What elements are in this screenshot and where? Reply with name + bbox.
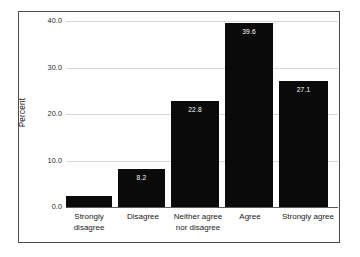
gridline [66, 21, 338, 22]
y-tick-label: 30.0 [28, 64, 62, 72]
bar-neither-agree-nor-disagree[interactable]: 22.8 [171, 101, 219, 207]
bar-disagree[interactable]: 8.2 [118, 169, 165, 207]
x-tick-line: nor disagree [163, 223, 233, 234]
x-tick-line: Strongly agree [272, 212, 344, 223]
bar-strongly-agree[interactable]: 27.1 [279, 81, 328, 207]
plot-area: 8.2 22.8 39.6 27.1 [66, 21, 338, 207]
bar-agree[interactable]: 39.6 [225, 23, 273, 207]
y-tick-label: 40.0 [28, 17, 62, 25]
x-tick-line: disagree [56, 223, 122, 234]
bar-value-label: 8.2 [118, 174, 165, 181]
y-tick-label: 0.0 [28, 203, 62, 211]
gridline [66, 68, 338, 69]
y-axis-label: Percent [18, 83, 27, 143]
y-tick-label: 10.0 [28, 157, 62, 165]
x-axis-baseline [66, 207, 338, 208]
x-tick-label-strongly-agree: Strongly agree [272, 212, 344, 223]
y-tick-label: 20.0 [28, 110, 62, 118]
bar-value-label: 27.1 [279, 86, 328, 93]
chart-figure: 40.0 30.0 20.0 10.0 0.0 Percent 8.2 22.8… [0, 0, 360, 257]
bar-value-label: 39.6 [225, 28, 273, 35]
bar-strongly-disagree[interactable] [66, 196, 112, 207]
bar-value-label: 22.8 [171, 106, 219, 113]
